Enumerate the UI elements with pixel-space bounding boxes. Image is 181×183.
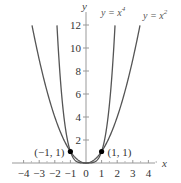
x-tick-label: −3 [33, 167, 45, 179]
x-tick-label: 4 [146, 167, 152, 179]
y-tick-label: 2 [76, 134, 82, 146]
y-tick-label: 4 [76, 111, 82, 123]
x-tick-label: 2 [114, 167, 120, 179]
y-tick-label: 10 [70, 42, 82, 54]
curve-label-x4: y = x4 [100, 5, 126, 18]
y-tick-label: 8 [76, 65, 82, 77]
point-label: (−1, 1) [34, 146, 64, 159]
svg-text:y = x2: y = x2 [142, 8, 168, 21]
y-axis-label: y [81, 0, 87, 12]
curve-label-x2: y = x2 [142, 8, 168, 21]
point-marker [99, 149, 104, 154]
x-tick-label: 0 [83, 167, 89, 179]
x-tick-label: 3 [130, 167, 136, 179]
point-label: (1, 1) [108, 146, 132, 159]
x-tick-label: −1 [65, 167, 77, 179]
x-tick-label: 1 [99, 167, 105, 179]
chart: −4−3−2−101234 24681012 x y (−1, 1)(1, 1)… [0, 0, 181, 183]
y-tick-label: 12 [70, 19, 81, 31]
points: (−1, 1)(1, 1) [34, 146, 131, 159]
point-marker [68, 149, 73, 154]
x-tick-label: −2 [49, 167, 61, 179]
svg-text:y = x4: y = x4 [100, 5, 126, 18]
x-axis-label: x [161, 157, 167, 169]
x-tick-label: −4 [18, 167, 30, 179]
y-tick-label: 6 [76, 88, 82, 100]
